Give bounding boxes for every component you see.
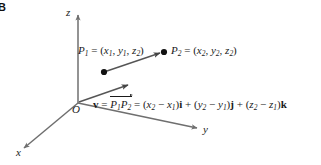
point-p2-label: P2 = (x2, y2, z2) — [171, 45, 237, 56]
term2-b-sub: 1 — [223, 103, 227, 112]
term2-a: y — [198, 98, 203, 110]
unit-vector-i: i — [179, 98, 182, 110]
point-p2-dot — [161, 49, 167, 55]
x-axis-label: x — [16, 147, 21, 158]
point-p1-dot — [101, 69, 107, 75]
p2-coord-y-sub: 2 — [216, 49, 220, 58]
pp-letter-1: P — [110, 98, 117, 110]
y-axis-label: y — [203, 124, 208, 135]
pp-sub-2: 2 — [127, 103, 131, 112]
vector-pp-notation: P1P2 — [110, 99, 131, 110]
point-p1-label: P1 = (x1, y1, z2) — [78, 45, 144, 56]
plus-1: + — [185, 98, 191, 110]
p2-equals: = ( — [181, 44, 196, 56]
term3-b-sub: 1 — [273, 103, 277, 112]
p2-coord-x-sub: 2 — [202, 49, 206, 58]
plus-2: + — [237, 98, 243, 110]
equation-equals-2: = — [134, 98, 140, 110]
x-axis — [24, 103, 78, 148]
term1-minus: − — [158, 98, 164, 110]
term2-minus: − — [209, 98, 215, 110]
vector-symbol-v: v — [93, 98, 99, 110]
p1-coord-x: x — [104, 44, 109, 56]
overline-bar — [110, 96, 132, 97]
vector-component-equation: v = P1P2 = (x2 − x1)i + (y2 − y1)j + (z2… — [93, 99, 287, 110]
p1-subscript: 1 — [85, 49, 89, 58]
axes-and-vectors-graphic — [0, 0, 321, 165]
term1-b-sub: 1 — [172, 103, 176, 112]
unit-vector-j: j — [230, 98, 234, 110]
equation-equals-1: = — [101, 98, 107, 110]
term3-a-sub: 2 — [254, 103, 258, 112]
p2-coord-z-sub: 2 — [229, 49, 233, 58]
term1-a-sub: 2 — [151, 103, 155, 112]
term3-minus: − — [260, 98, 266, 110]
term3-a: z — [249, 98, 253, 110]
term2-a-sub: 2 — [203, 103, 207, 112]
origin-label: O — [72, 104, 80, 115]
p2-subscript: 2 — [178, 49, 182, 58]
unit-vector-k: k — [281, 98, 287, 110]
pp-sub-1: 1 — [117, 103, 121, 112]
vector-3d-figure: B — [0, 0, 321, 165]
p2-letter: P — [171, 44, 178, 56]
p1-letter: P — [78, 44, 85, 56]
p1-coord-y-sub: 1 — [123, 49, 127, 58]
p1-coord-x-sub: 1 — [109, 49, 113, 58]
overline-arrowhead — [130, 94, 133, 96]
p2-coord-x: x — [197, 44, 202, 56]
z-axis-label: z — [66, 7, 70, 18]
p1-equals: = ( — [88, 44, 103, 56]
p1-coord-z-sub: 2 — [136, 49, 140, 58]
